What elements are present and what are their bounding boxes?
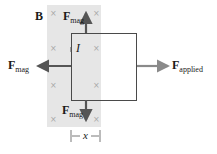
applied-force-label: Fapplied [172, 58, 203, 74]
width-dimension-label: x [83, 129, 88, 141]
mag-force-top-label: Fmag [63, 9, 84, 25]
arrows-layer [0, 0, 217, 154]
current-label: I [76, 41, 80, 56]
mag-force-left-label: Fmag [8, 58, 29, 74]
mag-force-bottom-label: Fmag [62, 103, 83, 119]
